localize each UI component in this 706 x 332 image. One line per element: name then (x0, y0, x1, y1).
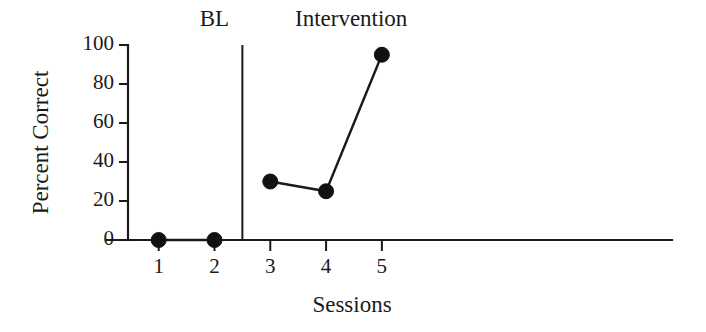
x-tick-label: 2 (209, 254, 220, 278)
y-tick-label: 0 (104, 226, 115, 250)
data-point-marker[interactable] (263, 174, 278, 189)
y-axis-ticks: 020406080100 (83, 31, 129, 250)
phase-label-bl: BL (200, 6, 229, 31)
x-tick-label: 5 (377, 254, 388, 278)
x-tick-label: 3 (265, 254, 276, 278)
data-point-marker[interactable] (207, 233, 222, 248)
x-tick-label: 4 (321, 254, 332, 278)
data-series-group (151, 47, 389, 247)
y-tick-label: 80 (93, 70, 114, 94)
y-tick-label: 60 (93, 109, 114, 133)
chart-container: 020406080100 12345 BLIntervention Percen… (0, 0, 706, 332)
data-point-marker[interactable] (374, 47, 389, 62)
y-tick-label: 20 (93, 187, 114, 211)
phase-label-group: BLIntervention (200, 6, 408, 31)
single-case-line-chart: 020406080100 12345 BLIntervention Percen… (0, 0, 706, 332)
data-point-marker[interactable] (319, 184, 334, 199)
x-tick-label: 1 (153, 254, 164, 278)
phase-label-intervention: Intervention (295, 6, 408, 31)
data-point-marker[interactable] (151, 233, 166, 248)
y-axis-title: Percent Correct (28, 70, 53, 214)
x-axis-title: Sessions (312, 292, 391, 317)
series-line-intervention (270, 55, 382, 192)
y-tick-label: 40 (93, 148, 114, 172)
x-axis-ticks: 12345 (153, 240, 387, 278)
y-tick-label: 100 (83, 31, 115, 55)
